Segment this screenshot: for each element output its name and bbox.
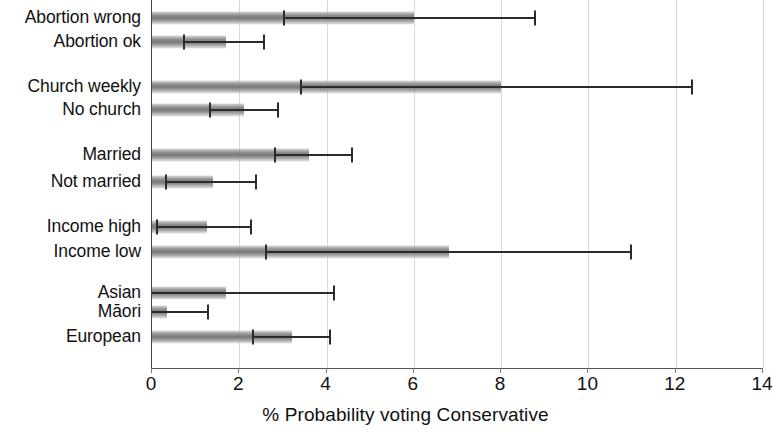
gridline-10: [588, 0, 589, 368]
error-bar-line: [274, 154, 353, 156]
x-axis-title: % Probability voting Conservative: [0, 404, 773, 426]
error-bar-line: [252, 336, 331, 338]
category-label: Asian: [98, 284, 141, 302]
category-label: Church weekly: [28, 78, 141, 96]
error-bar-line: [300, 86, 693, 88]
category-label: Abortion ok: [54, 33, 141, 51]
x-tick-label: 10: [577, 374, 598, 393]
error-bar-cap-lower: [283, 11, 285, 26]
gridline-2: [239, 0, 240, 368]
category-label: No church: [62, 101, 141, 119]
error-bar-cap-lower: [252, 330, 254, 345]
error-bar-cap-upper: [333, 286, 335, 301]
x-tick-label: 6: [408, 374, 419, 393]
chart-figure: Abortion wrongAbortion okChurch weeklyNo…: [0, 0, 773, 432]
error-bar-line: [165, 181, 257, 183]
error-bar-cap-lower: [165, 175, 167, 190]
error-bar-cap-upper: [207, 305, 209, 320]
error-bar-line: [265, 251, 632, 253]
category-label: Abortion wrong: [25, 9, 141, 27]
error-bar-line: [152, 311, 209, 313]
x-tick-label: 4: [320, 374, 331, 393]
x-tick-label: 0: [146, 374, 157, 393]
x-tick-label: 14: [751, 374, 772, 393]
gridline-8: [501, 0, 502, 368]
error-bar-cap-upper: [277, 103, 279, 118]
error-bar-cap-upper: [351, 148, 353, 163]
error-bar-cap-upper: [263, 35, 265, 50]
error-bar-cap-upper: [691, 80, 693, 95]
gridline-4: [327, 0, 328, 368]
gridline-6: [414, 0, 415, 368]
error-bar-cap-lower: [265, 245, 267, 260]
x-tick-label: 12: [664, 374, 685, 393]
error-bar-line: [156, 226, 252, 228]
category-label: European: [66, 328, 141, 346]
error-bar-line: [209, 109, 279, 111]
error-bar-line: [183, 41, 266, 43]
error-bar-cap-lower: [156, 220, 158, 235]
category-label: Māori: [98, 303, 141, 321]
error-bar-cap-upper: [250, 220, 252, 235]
category-label: Married: [82, 146, 141, 164]
category-label: Income low: [53, 243, 141, 261]
category-label: Not married: [51, 173, 141, 191]
error-bar-cap-lower: [274, 148, 276, 163]
x-axis-line: [151, 368, 763, 369]
gridline-14: [763, 0, 764, 368]
gridline-12: [676, 0, 677, 368]
error-bar-cap-upper: [534, 11, 536, 26]
error-bar-cap-lower: [183, 35, 185, 50]
error-bar-line: [152, 292, 335, 294]
error-bar-cap-lower: [300, 80, 302, 95]
x-tick-label: 8: [495, 374, 506, 393]
x-tick-label: 2: [233, 374, 244, 393]
x-axis-title-text: % Probability voting Conservative: [224, 404, 548, 426]
plot-area: [151, 0, 762, 368]
category-label: Income high: [47, 218, 141, 236]
error-bar-cap-upper: [630, 245, 632, 260]
error-bar-cap-lower: [209, 103, 211, 118]
category-label-axis: Abortion wrongAbortion okChurch weeklyNo…: [0, 0, 145, 368]
error-bar-line: [283, 17, 536, 19]
error-bar-cap-upper: [255, 175, 257, 190]
error-bar-cap-upper: [329, 330, 331, 345]
